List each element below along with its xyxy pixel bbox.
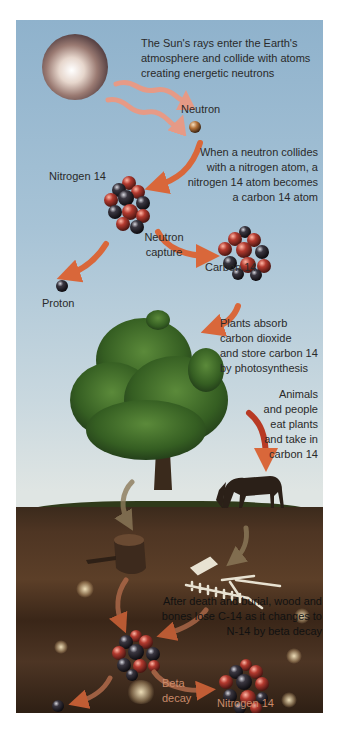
neutron-label: Neutron [181, 102, 220, 117]
beta-particle [52, 700, 64, 712]
caption-line: decay [162, 691, 191, 706]
proton-label: Proton [42, 296, 74, 311]
sun-icon [42, 34, 108, 100]
caption-line: bones lose C-14 as it changes to [146, 609, 322, 624]
arrow-stump-to-atom [118, 580, 126, 624]
caption-line: creating energetic neutrons [141, 66, 321, 81]
plants-caption: Plants absorb carbon dioxide and store c… [220, 316, 323, 376]
beta-decay-label: Beta decay [162, 676, 191, 706]
caption-line: and store carbon 14 [220, 346, 323, 361]
animals-caption: Animals and people eat plants and take i… [252, 387, 318, 462]
nitrogen14-atom-top [104, 176, 150, 234]
caption-line: carbon 14 [252, 447, 318, 462]
proton-particle [56, 280, 68, 292]
caption-line: When a neutron collides [166, 145, 318, 160]
caption-line: by photosynthesis [220, 361, 323, 376]
caption-line: and people [252, 402, 318, 417]
carbon14-cycle-diagram: The Sun's rays enter the Earth's atmosph… [16, 20, 323, 713]
neutron-capture-label: Neutron capture [140, 230, 188, 260]
caption-line: nitrogen 14 atom becomes [166, 175, 318, 190]
caption-line: The Sun's rays enter the Earth's [141, 36, 321, 51]
arrow-nitrogen-to-proton [68, 244, 106, 275]
sun-ray-arrows [108, 82, 186, 126]
collision-caption: When a neutron collides with a nitrogen … [166, 145, 318, 205]
caption-line: a carbon 14 atom [166, 190, 318, 205]
neutron-particle [189, 121, 201, 133]
caption-line: Plants absorb [220, 316, 323, 331]
caption-line: Beta [162, 676, 191, 691]
nitrogen14-bottom-label: Nitrogen 14 [217, 696, 274, 711]
carbon14-label: Carbon 14 [205, 260, 256, 275]
caption-line: Animals [252, 387, 318, 402]
caption-line: After death and burial, wood and [146, 594, 322, 609]
caption-line: carbon dioxide [220, 331, 323, 346]
caption-line: and take in [252, 432, 318, 447]
caption-line: N-14 by beta decay [146, 624, 322, 639]
caption-line: capture [140, 245, 188, 260]
nitrogen14-label: Nitrogen 14 [49, 169, 106, 184]
caption-line: atmosphere and collide with atoms [141, 51, 321, 66]
decay-caption: After death and burial, wood and bones l… [146, 594, 322, 639]
tree-illustration [70, 310, 228, 490]
caption-line: eat plants [252, 417, 318, 432]
tree-stump [86, 534, 146, 574]
arrow-atom-to-particle [78, 678, 110, 702]
sun-rays-caption: The Sun's rays enter the Earth's atmosph… [141, 36, 321, 81]
arrow-tree-to-stump [123, 482, 132, 522]
caption-line: with a nitrogen atom, a [166, 160, 318, 175]
horse-silhouette [216, 476, 284, 508]
caption-line: Neutron [140, 230, 188, 245]
arrow-horse-to-skeleton [234, 528, 247, 560]
